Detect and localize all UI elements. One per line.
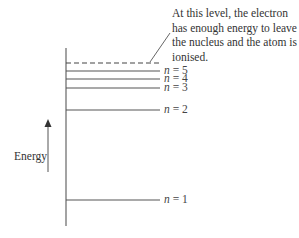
energy-arrow-icon xyxy=(45,119,52,127)
energy-axis-label: Energy xyxy=(14,150,47,162)
annotation-pointer xyxy=(150,33,170,62)
level-label-n3: n = 3 xyxy=(164,81,188,93)
level-value: = 2 xyxy=(170,103,188,115)
level-value: = 3 xyxy=(170,81,188,93)
ionisation-annotation: At this level, the electron has enough e… xyxy=(172,6,297,64)
level-label-n2: n = 2 xyxy=(164,103,188,115)
level-label-n1: n = 1 xyxy=(164,193,188,205)
level-value: = 1 xyxy=(170,193,188,205)
